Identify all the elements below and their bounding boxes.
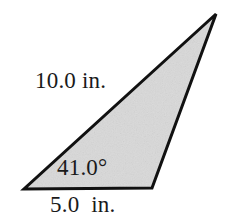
triangle-diagram: 10.0 in. 41.0° 5.0 in.	[0, 0, 226, 221]
angle-label-bottom-left: 41.0°	[57, 156, 107, 179]
side-label-base: 5.0 in.	[50, 193, 116, 216]
triangle-shape	[0, 0, 226, 221]
side-label-hypotenuse: 10.0 in.	[35, 69, 106, 92]
